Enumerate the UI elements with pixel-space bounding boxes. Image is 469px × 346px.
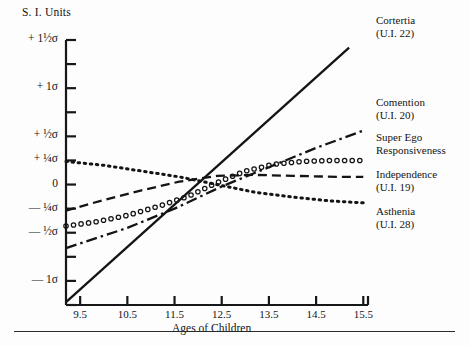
legend-item-name: Comention xyxy=(376,96,425,109)
legend-item-code: (U.I. 19) xyxy=(376,181,437,194)
x-axis-title: Ages of Children xyxy=(172,322,251,334)
legend-item-name: Cortertia xyxy=(376,14,415,27)
y-tick-label: 0 xyxy=(12,177,58,189)
x-tick-label: 12.5 xyxy=(202,308,242,320)
y-tick-label: + 1σ xyxy=(12,80,58,92)
footer-rule xyxy=(14,331,455,332)
legend-item-comention: Comention(U.I. 20) xyxy=(376,96,425,121)
y-tick-label: + ½σ xyxy=(12,128,58,140)
legend-item-independence: Independence(U.I. 19) xyxy=(376,168,437,193)
chart-series xyxy=(64,48,363,302)
y-tick-label: + 1½σ xyxy=(12,32,58,44)
legend-item-code: (U.I. 20) xyxy=(376,109,425,122)
x-tick-label: 15.5 xyxy=(343,308,383,320)
y-tick-label: — 1σ xyxy=(12,273,58,285)
x-tick-label: 9.5 xyxy=(60,308,100,320)
legend-item-code: Responsiveness xyxy=(376,144,446,157)
legend-item-name: Super Ego xyxy=(376,131,446,144)
x-tick-label: 11.5 xyxy=(155,308,195,320)
legend-item-code: (U.I. 22) xyxy=(376,27,415,40)
x-tick-label: 14.5 xyxy=(296,308,336,320)
legend-item-asthenia: Asthenia(U.I. 28) xyxy=(376,205,415,230)
chart-axes xyxy=(66,40,368,305)
legend-item-cortertia: Cortertia(U.I. 22) xyxy=(376,14,415,39)
x-tick-label: 13.5 xyxy=(249,308,289,320)
legend-item-name: Asthenia xyxy=(376,205,415,218)
y-tick-label: — ½σ xyxy=(12,225,58,237)
y-tick-label: + ¼σ xyxy=(12,152,58,164)
x-tick-label: 10.5 xyxy=(107,308,147,320)
y-tick-label: — ¼σ xyxy=(12,201,58,213)
legend-item-superego: Super EgoResponsiveness xyxy=(376,131,446,156)
figure-container: S. I. Units + 1½σ+ 1σ+ ½σ+ ¼σ0— ¼σ— ½σ— … xyxy=(0,0,469,346)
y-axis-caption: S. I. Units xyxy=(22,6,71,18)
legend-item-code: (U.I. 28) xyxy=(376,218,415,231)
legend-item-name: Independence xyxy=(376,168,437,181)
